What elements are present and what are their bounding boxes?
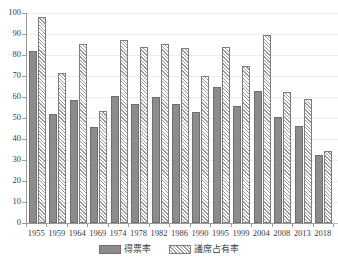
x-tick-mark [313, 224, 314, 227]
bar-seats[interactable] [140, 47, 148, 223]
bar-group [213, 13, 230, 223]
bar-votes[interactable] [192, 112, 200, 223]
bar-votes[interactable] [131, 104, 139, 223]
bar-group [70, 13, 87, 223]
x-tick-mark [190, 224, 191, 227]
bar-votes[interactable] [315, 155, 323, 223]
bar-seats[interactable] [263, 35, 271, 223]
bar-group [315, 13, 332, 223]
bar-group [29, 13, 46, 223]
bar-votes[interactable] [49, 114, 57, 223]
legend-entry-seats[interactable]: 議席占有率 [169, 244, 239, 254]
bar-seats[interactable] [283, 92, 291, 223]
legend-entry-votes[interactable]: 得票率 [99, 244, 151, 254]
x-tick-mark [169, 224, 170, 227]
x-tick-mark [333, 224, 334, 227]
legend: 得票率 議席占有率 [0, 244, 338, 254]
legend-label-votes: 得票率 [124, 244, 151, 254]
y-tick-label: 50 [0, 113, 21, 122]
bar-seats[interactable] [222, 47, 230, 223]
x-tick-mark [128, 224, 129, 227]
bar-group [254, 13, 271, 223]
x-tick-mark [292, 224, 293, 227]
bar-group [49, 13, 66, 223]
x-tick-mark [251, 224, 252, 227]
bar-votes[interactable] [90, 127, 98, 223]
bar-votes[interactable] [111, 96, 119, 223]
bar-votes[interactable] [233, 106, 241, 223]
x-tick-mark [87, 224, 88, 227]
plot-area [26, 13, 333, 223]
bar-group [233, 13, 250, 223]
bar-votes[interactable] [172, 104, 180, 223]
bar-votes[interactable] [274, 117, 282, 223]
bar-seats[interactable] [201, 76, 209, 223]
y-tick-label: 0 [0, 218, 21, 227]
y-tick-label: 70 [0, 71, 21, 80]
bar-seats[interactable] [324, 151, 332, 223]
bar-group [111, 13, 128, 223]
bar-seats[interactable] [79, 44, 87, 223]
bar-group [131, 13, 148, 223]
x-axis-line [26, 223, 333, 224]
bar-group [274, 13, 291, 223]
x-tick-mark [108, 224, 109, 227]
bar-seats[interactable] [161, 44, 169, 223]
bar-seats[interactable] [304, 99, 312, 223]
bar-seats[interactable] [38, 17, 46, 223]
y-tick-label: 20 [0, 176, 21, 185]
x-tick-mark [149, 224, 150, 227]
bar-seats[interactable] [99, 111, 107, 223]
legend-swatch-votes-icon [99, 245, 121, 254]
legend-label-seats: 議席占有率 [194, 244, 239, 254]
y-tick-label: 80 [0, 50, 21, 59]
bar-group [295, 13, 312, 223]
legend-swatch-seats-icon [169, 245, 191, 254]
bar-votes[interactable] [29, 51, 37, 223]
y-tick-label: 10 [0, 197, 21, 206]
y-tick-label: 40 [0, 134, 21, 143]
bar-votes[interactable] [213, 87, 221, 223]
bar-seats[interactable] [181, 48, 189, 223]
bar-votes[interactable] [152, 97, 160, 223]
x-tick-mark [272, 224, 273, 227]
bar-seats[interactable] [58, 73, 66, 223]
y-tick-label: 30 [0, 155, 21, 164]
x-tick-mark [46, 224, 47, 227]
bar-seats[interactable] [120, 40, 128, 223]
bar-seats[interactable] [242, 66, 250, 223]
x-tick-mark [210, 224, 211, 227]
y-tick-label: 60 [0, 92, 21, 101]
x-tick-mark [67, 224, 68, 227]
bar-group [90, 13, 107, 223]
y-tick-label: 90 [0, 29, 21, 38]
bar-chart: 0102030405060708090100 19551959196419691… [0, 0, 338, 265]
x-tick-mark [26, 224, 27, 227]
bar-votes[interactable] [295, 126, 303, 223]
bar-group [152, 13, 169, 223]
bar-votes[interactable] [254, 91, 262, 223]
y-tick-label: 100 [0, 8, 21, 17]
x-tick-label: 2018 [310, 228, 336, 238]
bar-group [192, 13, 209, 223]
x-tick-mark [231, 224, 232, 227]
bar-group [172, 13, 189, 223]
bar-votes[interactable] [70, 100, 78, 223]
